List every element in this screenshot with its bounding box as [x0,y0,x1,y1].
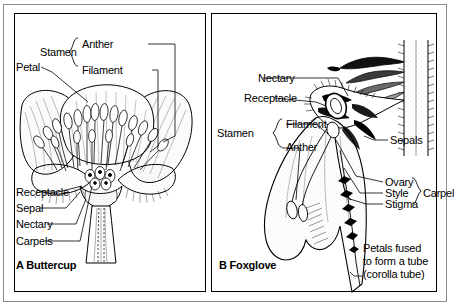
label-petals-fused-line1: Petals fused [363,242,421,255]
label-anther-b: Anther [286,141,317,153]
label-petals-fused-line2: to form a tube [363,255,428,268]
label-receptacle-b: Receptacle [244,92,297,104]
label-stigma-b: Stigma [385,198,418,210]
label-petals-fused-line3: (corolla tube) [363,268,424,281]
label-sepals-b: Sepals [390,134,422,146]
label-stamen-b: Stamen [217,127,254,139]
caption-foxglove: B Foxglove [219,259,276,271]
label-nectary-b: Nectary [258,72,295,84]
label-filament-b: Filament [286,118,327,130]
label-carpel-b: Carpel [423,187,454,199]
